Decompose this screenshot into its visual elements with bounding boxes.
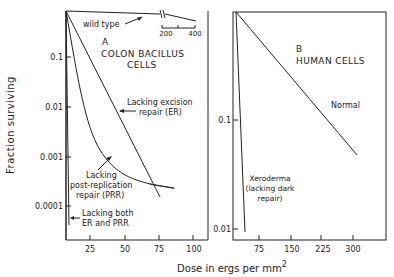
x-axis-label-superscript: 2 — [282, 260, 287, 269]
panel-b-x-tick-150: 150 — [284, 245, 299, 254]
both-label-line2: ER and PRR — [82, 219, 129, 228]
wild-type-line-extended — [165, 14, 196, 21]
y-tick-0-01: 0.01 — [45, 103, 63, 112]
normal-curve — [236, 12, 357, 155]
y-tick-0-1: 0.1 — [50, 53, 63, 62]
panel-b-y-tick-0-1: 0.1 — [218, 116, 231, 125]
y-tick-0-0001: 0.0001 — [35, 202, 63, 211]
panel-b-x-tick-225: 225 — [315, 245, 330, 254]
panel-a-title-line2: CELLS — [127, 60, 157, 70]
normal-label: Normal — [331, 101, 360, 110]
y-tick-0-001: 0.001 — [40, 153, 63, 162]
prr-label-line2: post-replication — [70, 181, 132, 190]
xeroderma-label-line3: repair) — [258, 194, 283, 203]
panel-b-letter: B — [296, 44, 302, 54]
prr-label-line1: Lacking — [86, 171, 117, 180]
x-axis-label-text: Dose in ergs per mm — [177, 263, 282, 274]
wild-type-line — [66, 11, 160, 14]
panel-a-frame — [66, 11, 208, 240]
panel-b-title: HUMAN CELLS — [296, 56, 365, 66]
er-label-line1: Lacking excision — [127, 98, 193, 107]
wild-type-label: wild type — [83, 20, 120, 29]
panel-a-letter: A — [102, 37, 109, 47]
x-tick-25: 25 — [85, 245, 95, 254]
xeroderma-label-line2: (lacking dark — [246, 184, 295, 193]
xeroderma-curve — [236, 12, 245, 232]
inset-tick-200: 200 — [159, 30, 172, 38]
y-axis-label: Fraction surviving — [5, 76, 16, 174]
figure: Fraction surviving 200 400 wild type 0.1… — [0, 0, 394, 277]
x-tick-50: 50 — [120, 245, 130, 254]
inset-tick-400: 400 — [188, 30, 201, 38]
x-tick-75: 75 — [154, 245, 164, 254]
xeroderma-label-line1: Xeroderma — [249, 174, 290, 183]
er-label-line2: repair (ER) — [139, 108, 182, 117]
panel-b-frame — [233, 12, 386, 240]
panel-b-y-tick-0-01: 0.01 — [213, 225, 231, 234]
x-axis-label: Dose in ergs per mm2 — [177, 260, 287, 274]
panel-b-x-tick-75: 75 — [254, 245, 264, 254]
panel-a: 200 400 wild type 0.1 0.01 0.001 0.0001 … — [35, 10, 208, 254]
both-label-line1: Lacking both — [82, 209, 133, 218]
x-tick-100: 100 — [186, 245, 201, 254]
panel-b-x-tick-300: 300 — [345, 245, 360, 254]
panel-b: 0.1 0.01 75 150 225 300 B HUMAN CELLS No… — [213, 12, 386, 254]
prr-label-line3: repair (PRR) — [76, 191, 124, 200]
panel-a-title-line1: COLON BACILLUS — [101, 49, 184, 59]
